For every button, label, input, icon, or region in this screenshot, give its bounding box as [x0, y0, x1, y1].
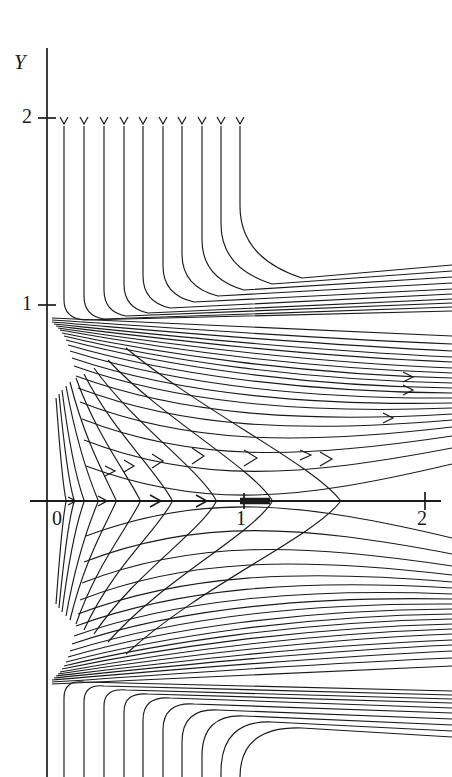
streamlines-lower-left-fan	[56, 502, 340, 654]
arrowheads-top-inflow	[60, 117, 244, 124]
streamlines-lower-fan	[52, 507, 452, 684]
streamlines-left-convergent-fan	[56, 348, 340, 500]
y-tick-label-2: 2	[22, 106, 32, 126]
x-tick-label-2: 2	[417, 508, 427, 528]
streamlines-bottom-elbow	[64, 682, 452, 777]
x-tick-label-0: 0	[52, 508, 62, 528]
axes	[30, 48, 441, 777]
streamlines-upper-fan	[52, 318, 452, 495]
x-tick-label-1: 1	[236, 508, 246, 528]
streamlines-top-inflow	[64, 126, 452, 320]
streamline-field	[0, 0, 452, 777]
y-axis-label: Y	[14, 52, 26, 73]
y-tick-label-1: 1	[22, 293, 32, 313]
phase-portrait-figure: Y 2 1 0 1 2	[0, 0, 452, 777]
